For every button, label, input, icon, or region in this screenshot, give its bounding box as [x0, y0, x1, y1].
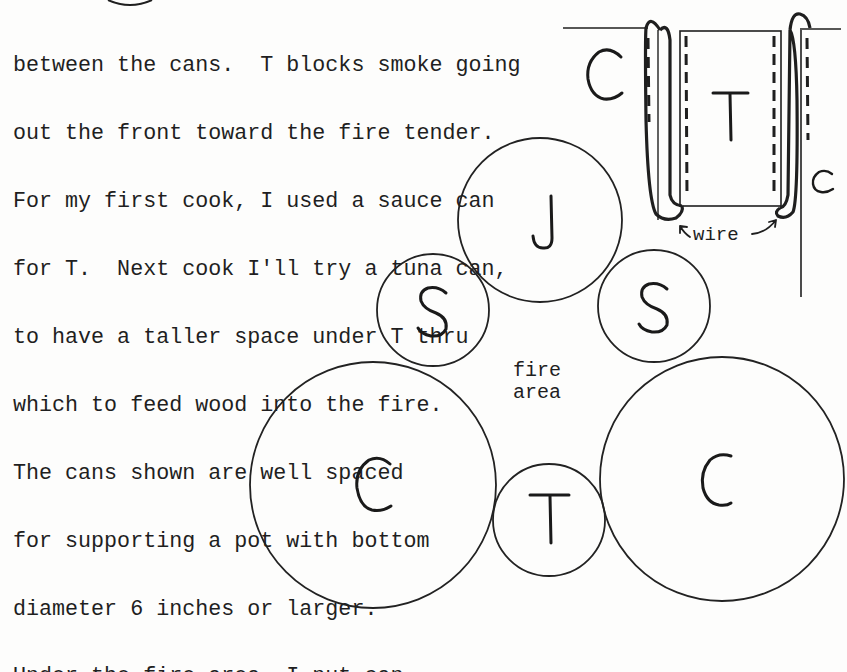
side-letter-T-glyph	[713, 93, 748, 140]
letter-C-right-glyph	[702, 455, 731, 506]
letter-J-glyph	[533, 196, 552, 248]
letter-C-left-glyph	[357, 458, 391, 510]
fire-area-label-line1: fire	[513, 359, 561, 382]
letter-S-right-glyph	[639, 284, 667, 333]
letter-S-left-glyph	[418, 288, 446, 337]
left-can-dashes	[648, 38, 649, 122]
stove-diagrams: fire area	[0, 0, 847, 672]
tender-left-dashes	[686, 36, 687, 196]
side-view-diagram	[563, 14, 841, 297]
left-wire-loop	[646, 21, 683, 219]
can-T	[493, 464, 605, 576]
can-C-left	[250, 362, 496, 608]
can-C-right	[600, 357, 844, 601]
wire-label: wire	[693, 224, 739, 246]
document-page: between the cans. T blocks smoke going o…	[0, 0, 847, 672]
fire-area-label-line2: area	[513, 381, 561, 404]
letter-T-glyph	[530, 495, 569, 543]
can-S-left	[377, 254, 489, 366]
right-can-dashes	[807, 38, 808, 140]
side-letter-C-right-glyph	[813, 171, 833, 192]
can-J	[458, 138, 622, 302]
left-wire-arrow	[680, 226, 690, 237]
right-wire-arrow	[752, 220, 776, 234]
can-S-right	[598, 250, 710, 362]
cropped-circle-arc	[108, 0, 152, 5]
side-letter-C-left-glyph	[588, 50, 622, 99]
